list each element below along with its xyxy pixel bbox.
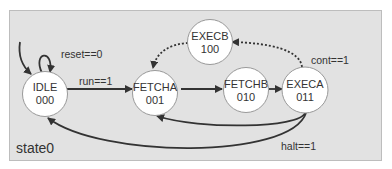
- state-name: FETCHA: [133, 81, 178, 93]
- state-code: 000: [36, 94, 54, 106]
- state-code: 001: [146, 94, 164, 106]
- edge-execa-to-execb: [232, 42, 302, 67]
- state-execa[interactable]: EXECA 011: [282, 67, 328, 113]
- state-execb[interactable]: EXECB 100: [188, 20, 233, 65]
- edge-execb-to-fetcha: [153, 43, 188, 68]
- state-name: FETCHB: [224, 78, 268, 90]
- edge-execa-to-idle: [48, 113, 306, 148]
- diagram-name-label: state0: [16, 140, 54, 156]
- label-halt: halt==1: [281, 140, 316, 152]
- edge-execa-to-fetcha: [157, 113, 305, 125]
- label-run: run==1: [79, 75, 112, 87]
- state-name: IDLE: [33, 81, 57, 93]
- state-diagram: IDLE 000 FETCHA 001 FETCHB 010 EXECA 011…: [0, 0, 392, 169]
- state-name: EXECA: [286, 78, 324, 90]
- state-idle[interactable]: IDLE 000: [23, 72, 68, 117]
- state-code: 011: [296, 91, 314, 103]
- state-code: 100: [201, 43, 219, 55]
- state-name: EXECB: [191, 30, 228, 42]
- label-cont: cont==1: [311, 54, 349, 66]
- label-reset: reset==0: [61, 48, 103, 60]
- state-fetcha[interactable]: FETCHA 001: [133, 71, 178, 116]
- edge-idle-self-loop: [39, 56, 50, 73]
- initial-transition-arrow: [19, 42, 31, 74]
- state-fetchb[interactable]: FETCHB 010: [224, 68, 269, 113]
- state-code: 010: [237, 91, 255, 103]
